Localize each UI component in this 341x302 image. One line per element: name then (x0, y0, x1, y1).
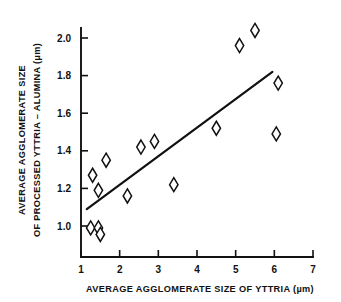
data-point-marker (137, 140, 145, 154)
x-tick-label: 4 (194, 264, 200, 275)
data-point-marker (102, 153, 110, 167)
axes-group (81, 28, 313, 257)
data-point-marker (123, 189, 131, 203)
y-tick-label: 1.6 (57, 108, 71, 119)
y-axis-title: AVERAGE AGGLOMERATE SIZE OF PROCESSED YT… (17, 43, 42, 237)
y-tick-label: 1.4 (57, 145, 71, 156)
data-point-marker (272, 127, 280, 141)
chart-figure: 1.01.21.41.61.82.0 1234567 AVERAGE AGGLO… (0, 0, 341, 302)
y-tick-label: 1.2 (57, 183, 71, 194)
x-tick-label: 3 (156, 264, 162, 275)
x-tick-label: 7 (310, 264, 316, 275)
y-axis-title-line2: OF PROCESSED YTTRIA – ALUMINA (µm) (32, 43, 42, 237)
x-tick-label: 5 (233, 264, 239, 275)
trend-line (87, 72, 273, 209)
data-markers-group (86, 23, 282, 241)
y-axis-tick-labels: 1.01.21.41.61.82.0 (57, 33, 71, 232)
data-point-marker (150, 134, 158, 148)
data-point-marker (274, 76, 282, 90)
trend-line-group (87, 72, 273, 209)
data-point-marker (235, 39, 243, 53)
x-tick-label: 1 (78, 264, 84, 275)
x-tick-label: 2 (117, 264, 123, 275)
data-point-marker (212, 121, 220, 135)
y-tick-label: 1.0 (57, 221, 71, 232)
data-point-marker (251, 23, 259, 37)
data-point-marker (170, 178, 178, 192)
scatter-plot: 1.01.21.41.61.82.0 1234567 AVERAGE AGGLO… (0, 0, 341, 302)
y-tick-label: 2.0 (57, 33, 71, 44)
x-axis-ticks (81, 250, 313, 257)
x-axis-title: AVERAGE AGGLOMERATE SIZE OF YTTRIA (µm) (86, 284, 314, 294)
y-tick-label: 1.8 (57, 70, 71, 81)
x-axis-tick-labels: 1234567 (78, 264, 316, 275)
y-axis-title-line1: AVERAGE AGGLOMERATE SIZE (17, 65, 27, 215)
x-tick-label: 6 (272, 264, 278, 275)
data-point-marker (94, 183, 102, 197)
y-axis-ticks (81, 38, 88, 226)
data-point-marker (88, 168, 96, 182)
